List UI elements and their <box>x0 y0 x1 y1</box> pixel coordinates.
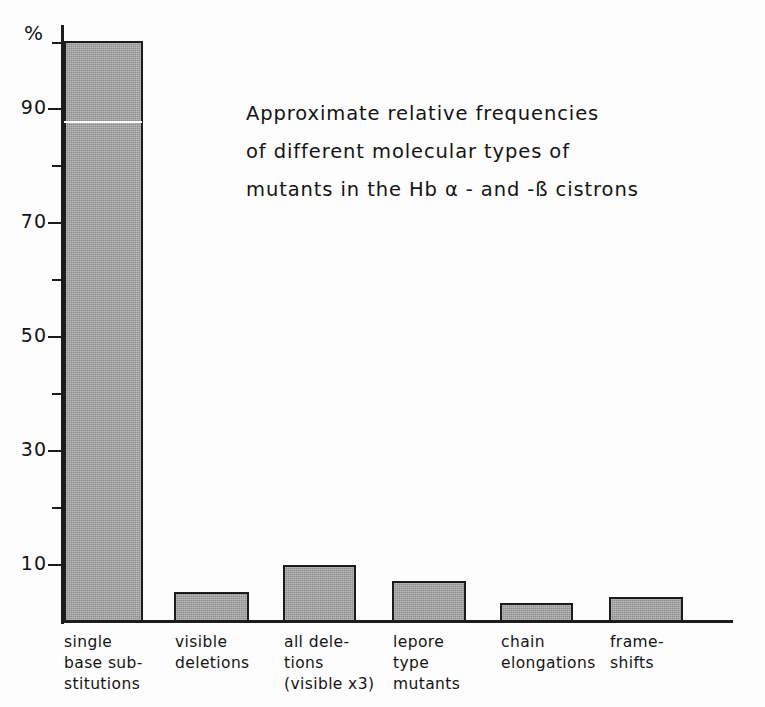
scan-artifact-line <box>64 121 142 123</box>
x-label-all-deletions: all dele- tions (visible x3) <box>284 632 374 695</box>
x-label-lepore-type-mutants: lepore type mutants <box>393 632 460 695</box>
y-tick-minor-100 <box>52 42 64 44</box>
bar-frame-shifts <box>609 597 683 622</box>
chart-title: Approximate relative frequencies of diff… <box>246 95 639 209</box>
y-tick-minor-60 <box>52 279 64 281</box>
y-tick-major-50 <box>48 336 64 338</box>
bar-lepore-type-mutants <box>392 581 466 622</box>
y-axis-unit-label: % <box>24 21 43 45</box>
y-tick-major-30 <box>48 450 64 452</box>
bar-visible-deletions <box>174 592 249 622</box>
x-label-single-base-substitutions: single base sub- stitutions <box>64 632 143 695</box>
bar-all-deletions <box>283 565 356 622</box>
bar-texture <box>502 605 571 620</box>
y-tick-minor-80 <box>52 165 64 167</box>
bar-texture <box>285 567 354 620</box>
x-label-frame-shifts: frame- shifts <box>610 632 664 674</box>
y-tick-minor-20 <box>52 507 64 509</box>
y-tick-label-50: 50 <box>21 324 47 346</box>
y-tick-label-90: 90 <box>21 96 47 118</box>
bar-texture <box>176 594 247 620</box>
y-tick-label-70: 70 <box>21 210 47 232</box>
y-tick-label-10: 10 <box>21 552 47 574</box>
x-label-visible-deletions: visible deletions <box>175 632 250 674</box>
bar-chain-elongations <box>500 603 573 622</box>
y-tick-major-70 <box>48 222 64 224</box>
bar-single-base-substitutions <box>64 41 143 622</box>
bar-chart-figure: % 90 70 50 30 10 single base sub- stitut… <box>0 0 765 707</box>
y-tick-minor-40 <box>52 393 64 395</box>
y-tick-major-10 <box>48 564 64 566</box>
y-tick-major-90 <box>48 108 64 110</box>
bar-texture <box>611 599 681 620</box>
y-tick-label-30: 30 <box>21 438 47 460</box>
x-label-chain-elongations: chain elongations <box>501 632 596 674</box>
bar-texture <box>394 583 464 620</box>
bar-texture <box>66 43 141 620</box>
